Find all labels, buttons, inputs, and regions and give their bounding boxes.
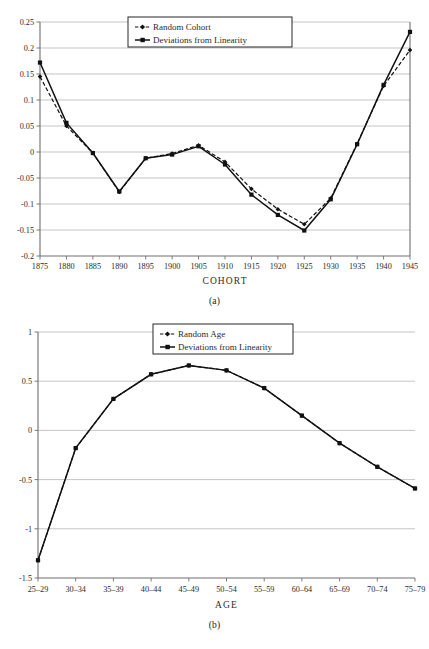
legend-label: Random Cohort	[153, 22, 211, 32]
x-tick-label: 65–69	[329, 585, 349, 594]
series-line-1	[40, 50, 410, 224]
chart-a-plot: 0.250.20.150.10.050-0.05-0.1-0.15-0.2187…	[0, 0, 429, 292]
y-tick-label: -0.15	[17, 226, 34, 235]
y-tick-label: -0.2	[21, 252, 34, 261]
figure-a-caption: (a)	[0, 296, 429, 306]
data-point-marker	[329, 197, 333, 201]
y-tick-label: -0.1	[21, 200, 34, 209]
x-tick-label: 1920	[270, 262, 286, 271]
x-tick-label: 1880	[58, 262, 74, 271]
legend-marker-square	[140, 38, 144, 42]
y-tick-label: 0	[30, 148, 34, 157]
data-point-marker	[413, 486, 417, 490]
x-tick-label: 50–54	[216, 585, 236, 594]
x-tick-label: 1910	[217, 262, 233, 271]
legend-label: Random Age	[178, 329, 225, 339]
data-point-marker	[144, 156, 148, 160]
x-tick-label: 25–29	[28, 585, 48, 594]
x-tick-label: 30–34	[65, 585, 85, 594]
x-tick-label: 1895	[138, 262, 154, 271]
y-tick-label: -1	[25, 525, 32, 534]
x-tick-label: 1930	[323, 262, 339, 271]
y-tick-label: 0.05	[20, 122, 34, 131]
data-point-marker	[408, 30, 412, 34]
y-tick-label: 0.1	[24, 96, 34, 105]
data-point-marker	[276, 213, 280, 217]
chart-a-canvas: 0.250.20.150.10.050-0.05-0.1-0.15-0.2187…	[0, 0, 429, 292]
x-axis-title: AGE	[215, 600, 238, 610]
data-point-marker	[381, 83, 385, 87]
x-tick-label: 40–44	[141, 585, 161, 594]
y-tick-label: 0.2	[24, 44, 34, 53]
y-tick-label: -1.5	[19, 574, 32, 583]
data-point-marker	[91, 151, 95, 155]
data-point-marker	[38, 60, 42, 64]
data-point-marker	[223, 162, 227, 166]
x-tick-label: 45–49	[179, 585, 199, 594]
data-point-marker	[355, 142, 359, 146]
y-tick-label: 0.25	[20, 18, 34, 27]
y-tick-label: -0.05	[17, 174, 34, 183]
y-tick-label: 0	[28, 426, 32, 435]
data-point-marker	[74, 446, 78, 450]
x-tick-label: 1940	[375, 262, 391, 271]
data-point-marker	[111, 397, 115, 401]
x-tick-label: 1945	[402, 262, 418, 271]
data-point-marker	[375, 465, 379, 469]
x-tick-label: 1905	[190, 262, 206, 271]
data-point-marker	[408, 48, 413, 53]
data-point-marker	[38, 74, 43, 79]
figure-a: 0.250.20.150.10.050-0.05-0.1-0.15-0.2187…	[0, 0, 429, 320]
x-tick-label: 60–64	[292, 585, 312, 594]
legend-marker-square	[165, 345, 169, 349]
x-tick-label: 75–79	[405, 585, 425, 594]
x-tick-label: 1900	[164, 262, 180, 271]
x-tick-label: 1890	[111, 262, 127, 271]
data-point-marker	[338, 441, 342, 445]
data-point-marker	[302, 228, 306, 232]
figure-b: 10.50-0.5-1-1.525–2930–3435–3940–4445–49…	[0, 320, 429, 649]
data-point-marker	[196, 144, 200, 148]
chart-b-canvas: 10.50-0.5-1-1.525–2930–3435–3940–4445–49…	[0, 320, 429, 616]
data-point-marker	[149, 372, 153, 376]
data-point-marker	[187, 363, 191, 367]
x-tick-label: 1925	[296, 262, 312, 271]
legend-label: Deviations from Linearity	[153, 35, 247, 45]
x-tick-label: 55–59	[254, 585, 274, 594]
data-point-marker	[64, 121, 68, 125]
y-tick-label: 0.5	[22, 377, 32, 386]
data-point-marker	[300, 414, 304, 418]
data-point-marker	[249, 193, 253, 197]
legend-label: Deviations from Linearity	[178, 342, 272, 352]
y-tick-label: 0.15	[20, 70, 34, 79]
x-tick-label: 1915	[243, 262, 259, 271]
chart-b-plot: 10.50-0.5-1-1.525–2930–3435–3940–4445–49…	[0, 320, 429, 616]
y-tick-label: 1	[28, 328, 32, 337]
data-point-marker	[170, 153, 174, 157]
data-point-marker	[224, 368, 228, 372]
data-point-marker	[117, 189, 121, 193]
data-point-marker	[36, 558, 40, 562]
series-line-2	[38, 365, 415, 560]
series-line-2	[40, 32, 410, 231]
x-tick-label: 1875	[32, 262, 48, 271]
y-tick-label: -0.5	[19, 476, 32, 485]
series-line-1	[38, 365, 415, 560]
x-tick-label: 1935	[349, 262, 365, 271]
x-tick-label: 70–74	[367, 585, 387, 594]
x-axis-title: COHORT	[202, 276, 247, 286]
data-point-marker	[262, 386, 266, 390]
x-tick-label: 35–39	[103, 585, 123, 594]
figure-b-caption: (b)	[0, 620, 429, 630]
x-tick-label: 1885	[85, 262, 101, 271]
